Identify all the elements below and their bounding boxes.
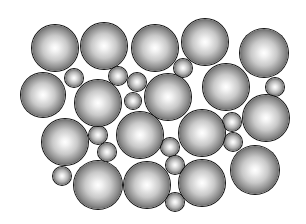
large-sphere	[179, 160, 225, 206]
small-sphere	[109, 67, 127, 85]
small-sphere	[128, 73, 146, 91]
large-sphere	[74, 161, 122, 209]
large-sphere	[179, 110, 225, 156]
small-sphere	[174, 59, 192, 77]
large-sphere	[240, 29, 288, 77]
large-sphere	[182, 19, 228, 65]
small-sphere	[223, 113, 241, 131]
large-sphere	[21, 73, 65, 117]
large-sphere	[81, 23, 127, 69]
small-sphere	[65, 69, 83, 87]
small-sphere	[166, 193, 184, 211]
small-sphere	[224, 133, 242, 151]
large-sphere	[231, 146, 279, 194]
small-sphere	[53, 167, 71, 185]
large-sphere	[145, 74, 191, 120]
large-sphere	[132, 25, 178, 71]
large-sphere	[75, 80, 121, 126]
small-sphere	[161, 138, 179, 156]
small-sphere	[266, 78, 284, 96]
small-sphere	[125, 93, 141, 109]
large-sphere	[117, 112, 163, 158]
large-sphere	[32, 25, 78, 71]
large-sphere	[42, 119, 88, 165]
spheres-illustration	[0, 0, 306, 224]
large-sphere	[124, 162, 170, 208]
large-sphere	[203, 64, 249, 110]
small-sphere	[98, 143, 116, 161]
small-sphere	[89, 126, 107, 144]
large-sphere	[243, 95, 289, 141]
